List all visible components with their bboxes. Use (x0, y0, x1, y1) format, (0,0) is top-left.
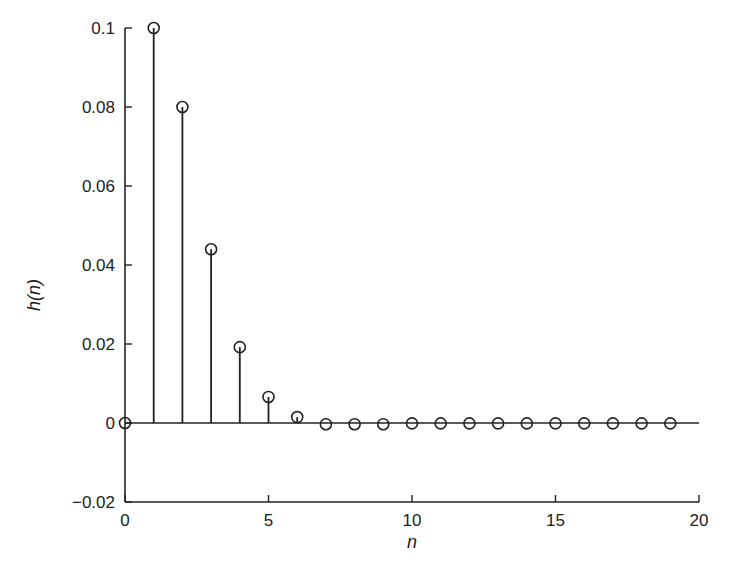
y-tick-label: 0.02 (82, 335, 115, 354)
x-axis-label: n (407, 532, 417, 552)
y-axis-label: h(n) (24, 279, 44, 311)
x-tick-label: 5 (264, 511, 273, 530)
stem-marker (320, 419, 331, 430)
y-tick-label: −0.02 (72, 493, 115, 512)
stem-series (120, 23, 676, 430)
y-tick-label: 0.06 (82, 177, 115, 196)
y-tick-label: 0.1 (91, 19, 115, 38)
x-tick-label: 20 (690, 511, 709, 530)
stem-plot: −0.0200.020.040.060.080.105101520nh(n) (0, 0, 732, 577)
axis-labels: −0.0200.020.040.060.080.105101520nh(n) (24, 19, 708, 552)
y-tick-label: 0 (106, 414, 115, 433)
stem-marker (378, 419, 389, 430)
stem-marker (349, 419, 360, 430)
x-tick-label: 15 (546, 511, 565, 530)
y-tick-label: 0.04 (82, 256, 115, 275)
x-tick-label: 0 (120, 511, 129, 530)
y-tick-label: 0.08 (82, 98, 115, 117)
x-tick-label: 10 (403, 511, 422, 530)
